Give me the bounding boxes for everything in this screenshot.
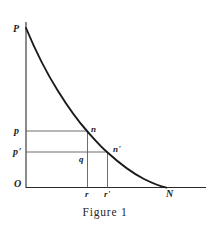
label-p: p [14, 126, 19, 136]
label-N: N [166, 189, 173, 199]
figure-caption: Figure 1 [0, 206, 210, 218]
demand-curve [26, 28, 167, 188]
label-r: r [85, 190, 89, 199]
figure-container: P p p' O q n n' r r' N Figure 1 [0, 0, 210, 227]
label-P: P [13, 24, 19, 34]
label-O: O [14, 179, 21, 189]
label-n-prime: n' [113, 145, 121, 154]
label-r-prime: r' [104, 190, 110, 199]
label-q: q [79, 155, 84, 164]
label-p-prime: p' [13, 147, 21, 157]
label-n: n [91, 125, 96, 134]
